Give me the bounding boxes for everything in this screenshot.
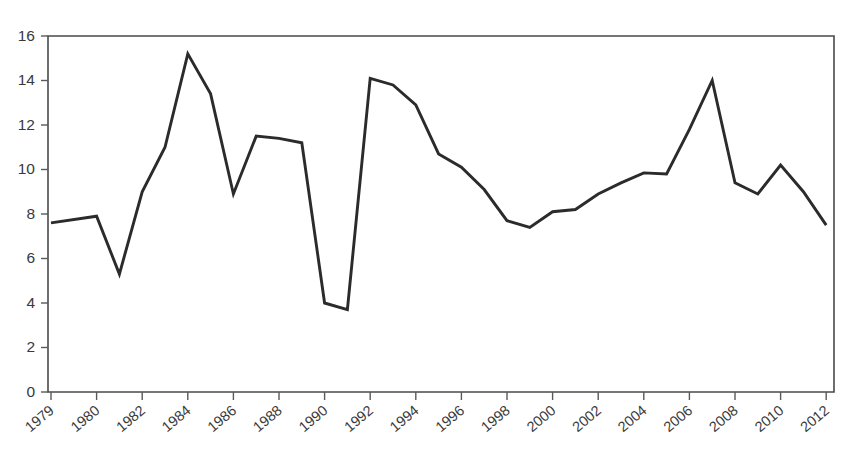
x-tick-label: 1986	[204, 402, 239, 435]
x-tick-label: 2002	[569, 402, 604, 435]
plot-frame	[48, 36, 834, 392]
y-tick-label: 14	[18, 71, 36, 88]
y-tick-label: 8	[26, 205, 35, 222]
x-tick-label: 1998	[478, 402, 513, 435]
x-tick-label: 2008	[706, 402, 741, 435]
x-axis-labels: 1979198019821984198619881990199219941996…	[22, 402, 832, 435]
x-tick-label: 1984	[159, 402, 194, 435]
line-chart: 0246810121416 19791980198219841986198819…	[0, 0, 856, 469]
chart-canvas: 0246810121416 19791980198219841986198819…	[0, 0, 856, 469]
x-axis-ticks	[51, 392, 826, 400]
y-axis-ticks	[41, 36, 48, 392]
y-axis-labels: 0246810121416	[18, 27, 36, 400]
data-line-1	[51, 54, 826, 310]
y-tick-label: 10	[18, 160, 36, 177]
x-tick-label: 2000	[524, 402, 559, 435]
y-tick-label: 4	[26, 294, 35, 311]
y-tick-label: 2	[26, 338, 35, 355]
x-tick-label: 1988	[250, 402, 285, 435]
data-series-group	[51, 54, 826, 310]
x-tick-label: 1980	[68, 402, 103, 435]
x-tick-label: 1994	[387, 402, 422, 435]
x-tick-label: 1979	[22, 402, 57, 435]
y-tick-label: 6	[26, 249, 35, 266]
x-tick-label: 2012	[797, 402, 832, 435]
y-tick-label: 0	[26, 383, 35, 400]
x-tick-label: 2010	[752, 402, 787, 435]
plot-border	[48, 36, 834, 392]
x-tick-label: 2004	[615, 402, 650, 435]
y-tick-label: 12	[18, 116, 35, 133]
x-tick-label: 1982	[113, 402, 148, 435]
x-tick-label: 2006	[660, 402, 695, 435]
x-tick-label: 1996	[432, 402, 467, 435]
y-tick-label: 16	[18, 27, 35, 44]
x-tick-label: 1990	[296, 402, 331, 435]
x-tick-label: 1992	[341, 402, 376, 435]
